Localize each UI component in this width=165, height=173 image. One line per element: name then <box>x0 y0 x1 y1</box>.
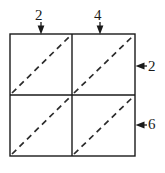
arrow-group-right <box>136 63 148 129</box>
geometry-figure: 2 4 2 6 <box>0 0 165 173</box>
arrow-head-right-lower <box>136 122 145 129</box>
dimension-label-right-upper: 2 <box>148 59 156 74</box>
diagonal-bottom-left-cell <box>12 97 70 154</box>
arrow-head-right-upper <box>136 63 145 70</box>
arrow-group-top <box>38 22 104 35</box>
diagonal-bottom-right-cell <box>74 97 133 154</box>
figure-canvas <box>0 0 165 173</box>
dimension-label-right-lower: 6 <box>148 117 156 132</box>
arrow-head-top-right <box>97 26 104 35</box>
diagonal-top-left-cell <box>12 36 70 93</box>
dimension-label-top-right: 4 <box>94 8 102 23</box>
arrow-head-top-left <box>38 26 45 35</box>
dimension-label-top-left: 2 <box>35 8 43 23</box>
diagonal-top-right-cell <box>74 36 133 93</box>
